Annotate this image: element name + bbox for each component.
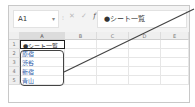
callout-line <box>0 0 195 107</box>
